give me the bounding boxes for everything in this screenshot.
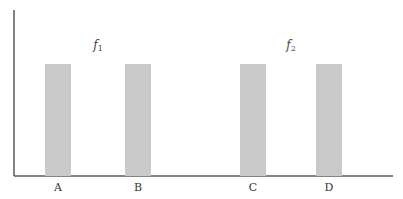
group-labels: f1f2 <box>92 38 296 53</box>
bar-chart: ABCD f1f2 <box>0 0 403 199</box>
group-label-1: f1 <box>92 38 103 53</box>
bar-c <box>240 64 266 176</box>
bars-group <box>45 64 342 176</box>
category-labels: ABCD <box>53 181 334 194</box>
category-label-d: D <box>325 181 334 194</box>
category-label-a: A <box>53 181 63 194</box>
bar-b <box>125 64 151 176</box>
category-label-c: C <box>249 181 257 194</box>
bar-d <box>316 64 342 176</box>
bar-a <box>45 64 71 176</box>
category-label-b: B <box>134 181 142 194</box>
group-label-2: f2 <box>285 38 296 53</box>
